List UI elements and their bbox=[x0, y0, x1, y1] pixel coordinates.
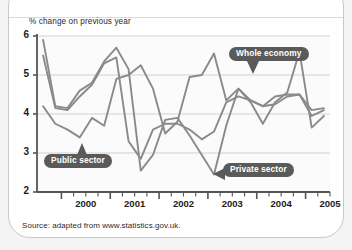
callout-tail-whole-economy-icon bbox=[247, 61, 259, 74]
x-tick-label: 2003 bbox=[212, 198, 252, 209]
chart-plot-area bbox=[0, 0, 352, 250]
page-background: % change on previous year 2 3 4 5 6 2000… bbox=[0, 0, 352, 250]
y-tick-label: 3 bbox=[15, 146, 29, 157]
source-note: Source: adapted from www.statistics.gov.… bbox=[22, 221, 181, 230]
x-tick-label: 2004 bbox=[261, 198, 301, 209]
y-tick-label: 6 bbox=[15, 29, 29, 40]
callout-tail-public-sector-icon bbox=[77, 143, 87, 155]
x-tick-label: 2005 bbox=[310, 198, 350, 209]
x-tick-label: 2002 bbox=[164, 198, 204, 209]
y-tick-label: 2 bbox=[15, 185, 29, 196]
callout-tail-private-sector-icon bbox=[213, 168, 225, 180]
callout-private-sector: Private sector bbox=[223, 163, 294, 177]
callout-public-sector: Public sector bbox=[44, 154, 112, 168]
x-tick-label: 2001 bbox=[115, 198, 155, 209]
line-chart-figure: % change on previous year 2 3 4 5 6 2000… bbox=[0, 0, 352, 250]
x-tick-label: 2000 bbox=[66, 198, 106, 209]
callout-whole-economy: Whole economy bbox=[229, 47, 309, 61]
y-tick-label: 5 bbox=[15, 68, 29, 79]
y-tick-label: 4 bbox=[15, 107, 29, 118]
